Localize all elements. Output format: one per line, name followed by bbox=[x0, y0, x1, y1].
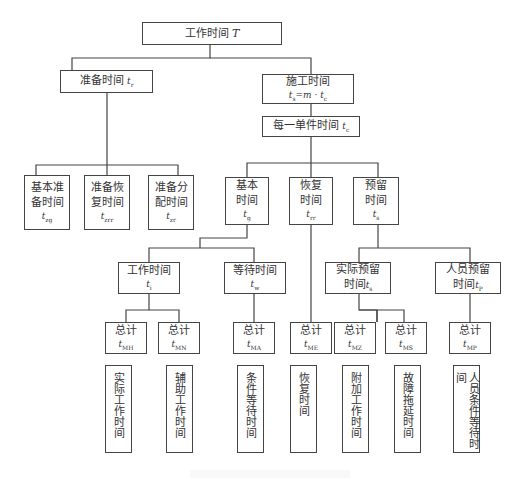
prep-time-box: 准备时间 tr bbox=[60, 70, 153, 93]
leaf-actual-work-time: 实际工作时间 bbox=[105, 365, 132, 453]
unit-time-sub: c bbox=[346, 125, 349, 132]
label-line1: 人员预留 bbox=[446, 262, 490, 277]
construction-time-label: 施工时间 bbox=[286, 74, 330, 89]
leaf-conditional-wait-time: 条件等待时间 bbox=[237, 365, 264, 453]
label-line1: 准备恢 bbox=[91, 180, 124, 195]
label-line2: 时间 bbox=[453, 278, 475, 291]
label-line2: 时间 bbox=[344, 278, 366, 291]
unit-time-box: 每一单件时间 tc bbox=[262, 116, 360, 137]
label-line1: 基本 bbox=[236, 178, 258, 193]
total-mp-box: 总计tMP bbox=[449, 322, 491, 354]
label-line2: 时间 bbox=[365, 193, 387, 208]
basic-prep-time-box: 基本准 备时间 tzg bbox=[24, 175, 70, 230]
total-mz-box: 总计tMZ bbox=[334, 322, 376, 354]
actual-reserve-time-box: 实际预留 时间ts bbox=[325, 262, 391, 294]
total-ma-box: 总计tMA bbox=[233, 322, 275, 354]
construction-time-box: 施工时间 ts=m · tc bbox=[262, 74, 354, 104]
label-line1: 准备分 bbox=[155, 180, 188, 195]
total-mn-box: 总计tMN bbox=[158, 322, 200, 354]
label-line1: 预留 bbox=[365, 178, 387, 193]
prep-allocation-time-box: 准备分 配时间 tzr bbox=[148, 175, 194, 230]
label-line2: 时间 bbox=[300, 193, 322, 208]
leaf-auxiliary-work-time: 辅助工作时间 bbox=[166, 365, 193, 453]
prep-recovery-time-box: 准备恢 复时间 tzrr bbox=[84, 175, 130, 230]
label-line2: 配时间 bbox=[155, 195, 188, 210]
label-line1: 实际预留 bbox=[336, 262, 380, 277]
leaf-recovery-time: 恢复时间 bbox=[290, 365, 317, 453]
faint-caption-strip bbox=[190, 470, 350, 478]
label-line2: 备时间 bbox=[31, 195, 64, 210]
label-line2: 时间 bbox=[236, 193, 258, 208]
total-ms-box: 总计tMS bbox=[385, 322, 427, 354]
unit-time-label: 每一单件时间 bbox=[273, 119, 339, 132]
label-line1: 基本准 bbox=[31, 180, 64, 195]
label: 工作时间 bbox=[127, 263, 171, 278]
label-line2: 复时间 bbox=[91, 195, 124, 210]
recovery-time-box: 恢复 时间 trr bbox=[289, 177, 333, 225]
prep-time-sub: r bbox=[131, 80, 134, 87]
personnel-reserve-time-box: 人员预留 时间tP bbox=[435, 262, 501, 294]
leaf-fault-delay-time: 故障拖延时间 bbox=[394, 365, 421, 453]
prep-time-label: 准备时间 bbox=[80, 74, 124, 87]
root-symbol: T bbox=[232, 27, 239, 40]
reserve-time-box: 预留 时间 ts bbox=[353, 177, 399, 225]
construction-time-formula: ts=m · tc bbox=[289, 89, 327, 105]
root-work-time-box: 工作时间 T bbox=[142, 22, 282, 45]
total-me-box: 总计tME bbox=[290, 322, 332, 354]
basic-time-box: 基本 时间 tg bbox=[225, 177, 269, 225]
label-line1: 恢复 bbox=[300, 178, 322, 193]
wait-time-box: 等待时间 tw bbox=[224, 262, 286, 294]
label: 等待时间 bbox=[233, 263, 277, 278]
leaf-additional-work-time: 附加工作时间 bbox=[342, 365, 369, 453]
work-time-box: 工作时间 ti bbox=[118, 262, 180, 294]
total-mh-box: 总计tMH bbox=[105, 322, 147, 354]
leaf-personnel-wait-time: 人员条件等待时间 bbox=[453, 365, 480, 453]
root-label: 工作时间 bbox=[185, 27, 229, 40]
